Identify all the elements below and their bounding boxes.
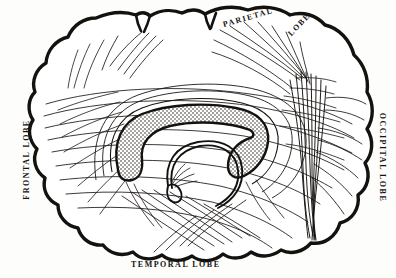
cortex-outline (29, 7, 372, 260)
label-frontal-lobe: FRONTAL LOBE (22, 119, 31, 199)
brain-illustration-svg (0, 0, 396, 278)
label-occipital-lobe: OCCIPITAL LOBE (378, 113, 387, 203)
brain-diagram-figure: erg cepen a pro odor n cases conves cont… (0, 0, 396, 278)
label-temporal-lobe: TEMPORAL LOBE (131, 260, 221, 269)
